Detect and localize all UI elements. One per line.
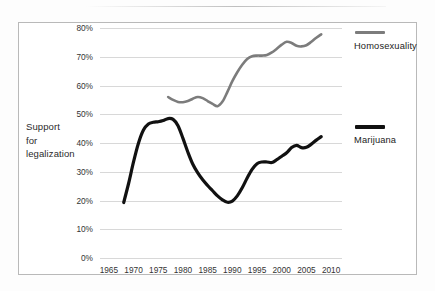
legend-swatch-homosexuality [355,31,385,34]
legend-label-marijuana: Marijuana [354,135,396,145]
legend-label-homosexuality: Homosexuality [354,41,417,51]
legend-swatch-marijuana [355,125,385,129]
x-tick-2010: 2010 [316,265,346,275]
chart-figure: Support for legalization 80%70%60%50%40%… [0,0,435,291]
